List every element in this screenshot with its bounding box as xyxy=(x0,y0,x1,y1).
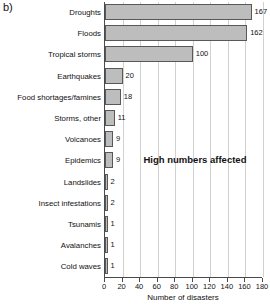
bar-row: 1 xyxy=(105,214,262,235)
bar xyxy=(105,46,193,62)
bar-row: 1 xyxy=(105,256,262,277)
bar-value-label: 100 xyxy=(196,47,209,61)
x-tick-label: 140 xyxy=(221,282,234,292)
bar xyxy=(105,237,108,253)
category-label: Epidemics xyxy=(65,150,101,171)
bar xyxy=(105,216,108,232)
bar-value-label: 1 xyxy=(111,238,115,252)
x-axis-title: Number of disasters xyxy=(104,293,262,302)
bar-row: 2 xyxy=(105,193,262,214)
bar-value-label: 18 xyxy=(124,90,132,104)
bar xyxy=(105,131,113,147)
category-label: Volcanoes xyxy=(65,129,101,150)
category-label: Food shortages/famines xyxy=(17,87,101,108)
bar xyxy=(105,25,247,41)
plot-area: 1671621002018119922111 xyxy=(104,2,262,278)
gridline xyxy=(263,2,264,277)
chart-annotation: High numbers affected xyxy=(144,154,247,165)
panel-label: b) xyxy=(3,1,13,13)
bar-row: 20 xyxy=(105,66,262,87)
bar xyxy=(105,4,252,20)
bar xyxy=(105,258,108,274)
x-tick-label: 180 xyxy=(256,282,269,292)
bar-value-label: 11 xyxy=(118,111,126,125)
x-tick-label: 60 xyxy=(152,282,160,292)
bar-value-label: 1 xyxy=(111,259,115,273)
bar-value-label: 167 xyxy=(255,5,268,19)
bar-value-label: 162 xyxy=(250,26,263,40)
bar-row: 162 xyxy=(105,23,262,44)
x-tick-label: 20 xyxy=(117,282,125,292)
x-tick-label: 100 xyxy=(186,282,199,292)
bar-row: 11 xyxy=(105,108,262,129)
category-label: Floods xyxy=(78,23,101,44)
bar-row: 100 xyxy=(105,44,262,65)
category-label: Earthquakes xyxy=(57,66,101,87)
category-label: Tropical storms xyxy=(48,44,101,65)
bar xyxy=(105,152,113,168)
category-label: Insect infestations xyxy=(39,193,101,214)
bar-row: 1 xyxy=(105,235,262,256)
bar-value-label: 2 xyxy=(111,175,115,189)
bar-value-label: 9 xyxy=(116,132,120,146)
bar-row: 18 xyxy=(105,87,262,108)
x-tick-label: 0 xyxy=(102,282,106,292)
category-label: Storms, other xyxy=(54,108,101,129)
bar xyxy=(105,110,115,126)
x-tick-label: 120 xyxy=(203,282,216,292)
bar-value-label: 20 xyxy=(126,69,134,83)
category-label: Droughts xyxy=(69,2,101,23)
x-tick-label: 80 xyxy=(170,282,178,292)
bar xyxy=(105,68,123,84)
bar-row: 167 xyxy=(105,2,262,23)
bar-value-label: 1 xyxy=(111,217,115,231)
bar xyxy=(105,89,121,105)
bar-value-label: 9 xyxy=(116,153,120,167)
category-label: Cold waves xyxy=(61,256,101,277)
x-tick-label: 40 xyxy=(135,282,143,292)
bar-row: 2 xyxy=(105,172,262,193)
bar xyxy=(105,174,108,190)
category-label: Tsunamis xyxy=(68,214,101,235)
bar-rows: 1671621002018119922111 xyxy=(105,2,262,277)
bar-value-label: 2 xyxy=(111,196,115,210)
bar-row: 9 xyxy=(105,129,262,150)
x-tick-label: 160 xyxy=(238,282,251,292)
category-label: Avalanches xyxy=(61,235,101,256)
bar xyxy=(105,195,108,211)
category-label: Landslides xyxy=(64,172,101,193)
